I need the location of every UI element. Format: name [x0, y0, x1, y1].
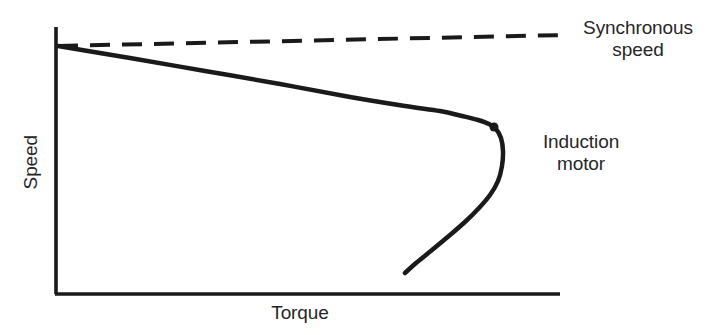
y-axis-label: Speed: [20, 117, 42, 207]
induction-motor-label: Induction motor: [515, 131, 647, 176]
synchronous-speed-label: Synchronous speed: [563, 17, 713, 62]
breakdown-torque-point: [490, 123, 499, 132]
x-axis-label: Torque: [240, 302, 360, 324]
speed-torque-figure: Synchronous speed Induction motor Torque…: [0, 0, 713, 335]
